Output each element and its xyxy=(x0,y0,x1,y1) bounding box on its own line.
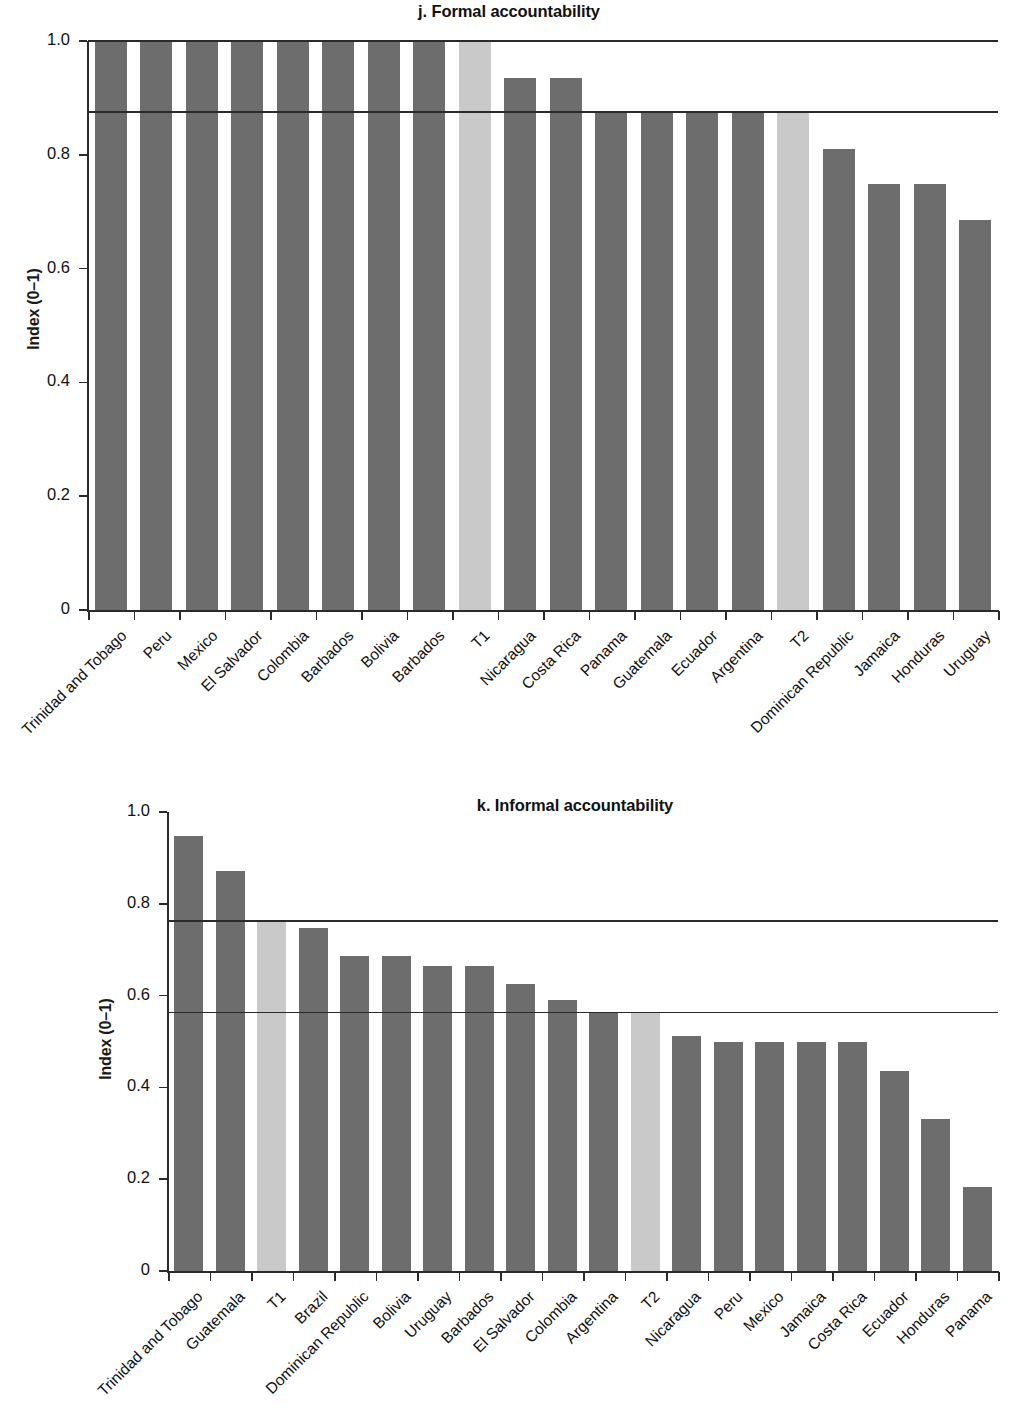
y-tick-mark xyxy=(159,811,167,813)
x-tick-mark xyxy=(407,611,409,620)
bar xyxy=(868,184,900,610)
y-tick-label: 0.8 xyxy=(8,144,70,163)
bar-highlighted xyxy=(459,41,491,610)
x-tick-mark xyxy=(88,611,90,620)
chart-panel-informal-accountability: k. Informal accountability Index (0–1) 0… xyxy=(0,790,1018,1422)
x-tick-mark xyxy=(680,611,682,620)
y-tick-mark xyxy=(159,903,167,905)
x-tick-mark xyxy=(500,1272,502,1281)
y-axis-line xyxy=(87,41,89,611)
bar xyxy=(550,78,582,610)
y-tick-label: 1.0 xyxy=(8,30,70,49)
x-tick-mark xyxy=(998,611,1000,620)
x-tick-mark xyxy=(361,611,363,620)
reference-line xyxy=(168,920,998,922)
bar xyxy=(216,871,245,1271)
bar xyxy=(322,41,354,610)
reference-line xyxy=(88,111,998,113)
y-tick-label: 0.6 xyxy=(8,258,70,277)
y-tick-label: 0 xyxy=(88,1260,150,1279)
bar xyxy=(506,984,535,1271)
bar xyxy=(823,149,855,610)
x-tick-mark xyxy=(791,1272,793,1281)
y-tick-label: 0.4 xyxy=(88,1076,150,1095)
y-tick-label: 0.4 xyxy=(8,371,70,390)
bar xyxy=(959,220,991,610)
x-tick-mark xyxy=(293,1272,295,1281)
x-tick-mark xyxy=(953,611,955,620)
bar xyxy=(382,956,411,1271)
x-tick-mark xyxy=(270,611,272,620)
bar xyxy=(755,1042,784,1272)
bar xyxy=(548,1000,577,1271)
y-tick-mark xyxy=(79,609,87,611)
chart-panel-formal-accountability: j. Formal accountability Index (0–1) 00.… xyxy=(0,0,1018,790)
x-tick-mark xyxy=(749,1272,751,1281)
reference-line xyxy=(168,1012,998,1014)
bar xyxy=(368,41,400,610)
bar xyxy=(95,41,127,610)
x-tick-mark xyxy=(832,1272,834,1281)
bar xyxy=(299,928,328,1271)
y-tick-label: 0.8 xyxy=(88,893,150,912)
bar xyxy=(231,41,263,610)
x-tick-mark xyxy=(498,611,500,620)
chart-title-formal-accountability: j. Formal accountability xyxy=(0,2,1018,21)
x-tick-mark xyxy=(874,1272,876,1281)
x-tick-mark xyxy=(459,1272,461,1281)
y-tick-mark xyxy=(159,1270,167,1272)
y-tick-label: 0.2 xyxy=(8,485,70,504)
bar xyxy=(921,1119,950,1271)
bar-highlighted xyxy=(631,1013,660,1271)
bar xyxy=(880,1071,909,1271)
bar xyxy=(963,1187,992,1271)
x-tick-mark xyxy=(168,1272,170,1281)
x-tick-mark xyxy=(998,1272,1000,1281)
x-tick-mark xyxy=(907,611,909,620)
x-tick-mark xyxy=(915,1272,917,1281)
x-tick-mark xyxy=(225,611,227,620)
bar xyxy=(174,836,203,1271)
y-tick-mark xyxy=(159,1178,167,1180)
bar-highlighted xyxy=(257,921,286,1271)
bar xyxy=(589,1013,618,1271)
y-tick-mark xyxy=(159,1087,167,1089)
x-tick-mark xyxy=(452,611,454,620)
x-tick-mark xyxy=(708,1272,710,1281)
bar xyxy=(595,112,627,610)
x-tick-mark xyxy=(816,611,818,620)
x-tick-mark xyxy=(957,1272,959,1281)
x-tick-mark xyxy=(543,611,545,620)
y-tick-mark xyxy=(79,382,87,384)
x-tick-mark xyxy=(179,611,181,620)
x-tick-mark xyxy=(251,1272,253,1281)
bar xyxy=(140,41,172,610)
bar xyxy=(641,112,673,610)
x-tick-mark xyxy=(376,1272,378,1281)
bar xyxy=(797,1042,826,1272)
bar xyxy=(672,1036,701,1271)
x-tick-mark xyxy=(589,611,591,620)
bar xyxy=(340,956,369,1271)
x-tick-mark xyxy=(725,611,727,620)
x-tick-mark xyxy=(417,1272,419,1281)
y-tick-label: 0 xyxy=(8,599,70,618)
x-tick-mark xyxy=(134,611,136,620)
bar xyxy=(732,112,764,610)
bar xyxy=(686,112,718,610)
x-tick-mark xyxy=(316,611,318,620)
y-axis-line xyxy=(167,812,169,1272)
y-tick-label: 0.6 xyxy=(88,985,150,1004)
bar xyxy=(186,41,218,610)
y-tick-label: 1.0 xyxy=(88,801,150,820)
x-tick-mark xyxy=(583,1272,585,1281)
bar xyxy=(914,184,946,610)
bar-highlighted xyxy=(777,112,809,610)
y-tick-label: 0.2 xyxy=(88,1168,150,1187)
plot-area-formal-accountability: 00.20.40.60.81.0Trinidad and TobagoPeruM… xyxy=(88,41,998,610)
x-tick-mark xyxy=(334,1272,336,1281)
plot-area-informal-accountability: 00.20.40.60.81.0Trinidad and TobagoGuate… xyxy=(168,812,998,1271)
x-tick-mark xyxy=(862,611,864,620)
y-tick-mark xyxy=(79,495,87,497)
bar xyxy=(838,1042,867,1272)
